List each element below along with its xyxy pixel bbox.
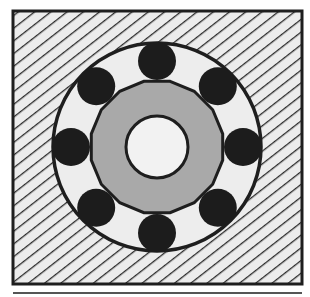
bearing-diagram bbox=[0, 0, 310, 297]
ball-7 bbox=[52, 128, 90, 166]
bore-hole bbox=[126, 116, 188, 178]
ball-5 bbox=[138, 214, 176, 252]
ball-3 bbox=[224, 128, 262, 166]
ball-1 bbox=[138, 42, 176, 80]
